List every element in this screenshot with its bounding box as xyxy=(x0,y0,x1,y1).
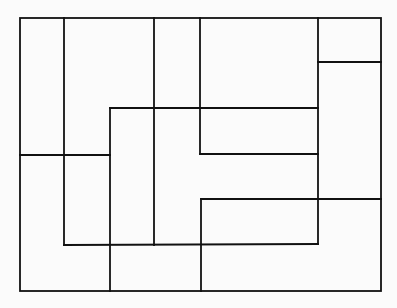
partition-diagram xyxy=(0,0,397,308)
divider-lines xyxy=(20,18,381,291)
divider-line-h-245 xyxy=(64,244,318,245)
